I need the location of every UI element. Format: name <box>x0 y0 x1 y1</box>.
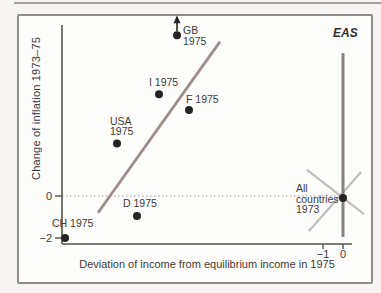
x-axis-label: Deviation of income from equilibrium inc… <box>62 258 352 270</box>
y-axis-label: Change of inflation 1973–75 <box>30 26 46 190</box>
cross-line-2 <box>309 172 361 231</box>
chart-canvas <box>0 0 381 293</box>
data-point-i <box>155 90 163 98</box>
data-point-d <box>133 212 141 220</box>
data-point-ch <box>61 234 69 242</box>
data-point-gb <box>173 31 181 39</box>
as-fit-line <box>98 42 220 213</box>
data-point-all <box>339 194 347 202</box>
cross-line-1 <box>307 170 364 214</box>
page-background: Change of inflation 1973–75 Deviation of… <box>0 0 381 293</box>
off-chart-arrow-head <box>174 15 181 23</box>
eas-curve-label: EAS <box>333 26 358 40</box>
data-point-f <box>185 106 193 114</box>
data-point-usa <box>113 140 121 148</box>
